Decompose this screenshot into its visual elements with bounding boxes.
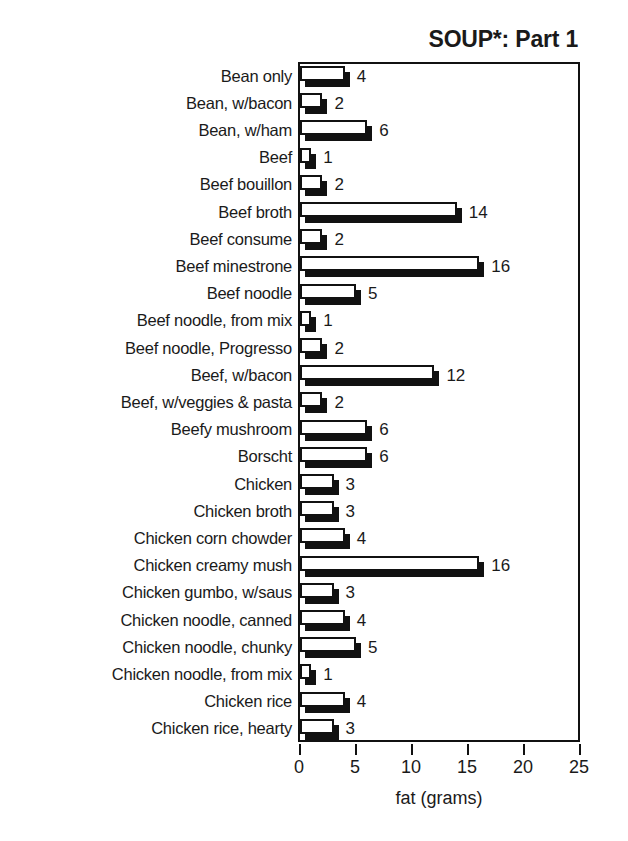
category-label: Beef noodle <box>207 285 292 302</box>
bar <box>300 229 328 250</box>
bar-face <box>300 583 334 598</box>
bar-face <box>300 93 322 108</box>
category-label: Chicken creamy mush <box>134 557 292 574</box>
bar-face <box>300 256 479 271</box>
category-label: Bean, w/ham <box>198 122 292 139</box>
category-label: Chicken noodle, chunky <box>122 639 292 656</box>
bar-value-label: 3 <box>346 720 355 737</box>
bar <box>300 392 328 413</box>
category-label: Beef consume <box>190 231 292 248</box>
bar <box>300 202 463 223</box>
x-tick-label: 20 <box>513 758 533 776</box>
bar <box>300 338 328 359</box>
bar-face <box>300 311 311 326</box>
bar <box>300 692 351 713</box>
bar <box>300 610 351 631</box>
bar <box>300 365 440 386</box>
bar <box>300 148 317 169</box>
bar-row: Chicken rice4 <box>0 688 628 715</box>
bar-value-label: 1 <box>323 312 332 329</box>
bar-face <box>300 637 356 652</box>
bar-row: Borscht6 <box>0 443 628 470</box>
bar-row: Chicken creamy mush16 <box>0 552 628 579</box>
bar-row: Bean, w/bacon2 <box>0 89 628 116</box>
category-label: Chicken rice <box>204 693 292 710</box>
bar-face <box>300 692 345 707</box>
bar-row: Beef consume2 <box>0 225 628 252</box>
bar-value-label: 4 <box>357 693 366 710</box>
bar-row: Chicken broth3 <box>0 497 628 524</box>
x-tick-mark <box>355 744 357 755</box>
bar-value-label: 3 <box>346 475 355 492</box>
bar-value-label: 2 <box>334 230 343 247</box>
bar <box>300 637 362 658</box>
bar <box>300 420 373 441</box>
bar-face <box>300 528 345 543</box>
bar-row: Beef1 <box>0 144 628 171</box>
bar-value-label: 6 <box>379 448 388 465</box>
bar-face <box>300 447 367 462</box>
bar <box>300 175 328 196</box>
category-label: Beef bouillon <box>200 176 292 193</box>
x-tick-label: 5 <box>350 758 360 776</box>
bar-row: Bean only4 <box>0 62 628 89</box>
bar <box>300 474 340 495</box>
bar-row: Bean, w/ham6 <box>0 116 628 143</box>
bar-face <box>300 474 334 489</box>
bar <box>300 719 340 740</box>
category-label: Chicken rice, hearty <box>151 720 292 737</box>
bar-value-label: 2 <box>334 339 343 356</box>
bar-row: Chicken noodle, canned4 <box>0 606 628 633</box>
bar-face <box>300 365 434 380</box>
category-label: Bean only <box>221 67 292 84</box>
bar-row: Chicken noodle, from mix1 <box>0 660 628 687</box>
chart-title: SOUP*: Part 1 <box>428 26 578 53</box>
bar-face <box>300 501 334 516</box>
category-label: Beef, w/bacon <box>191 367 292 384</box>
category-label: Chicken noodle, from mix <box>112 666 292 683</box>
bar-face <box>300 202 457 217</box>
category-label: Beef broth <box>218 203 292 220</box>
bar-face <box>300 610 345 625</box>
bar-value-label: 3 <box>346 584 355 601</box>
x-tick-label: 10 <box>401 758 421 776</box>
bar <box>300 447 373 468</box>
bar-face <box>300 420 367 435</box>
x-tick-mark <box>523 744 525 755</box>
bar-face <box>300 719 334 734</box>
bar <box>300 120 373 141</box>
bar <box>300 93 328 114</box>
category-label: Beef, w/veggies & pasta <box>121 394 292 411</box>
bar <box>300 256 485 277</box>
bar-row: Beef noodle5 <box>0 280 628 307</box>
soup-fat-bar-chart: SOUP*: Part 1 Bean only4Bean, w/bacon2Be… <box>0 0 628 841</box>
bar <box>300 311 317 332</box>
bar <box>300 66 351 87</box>
bar-value-label: 3 <box>346 502 355 519</box>
category-label: Chicken corn chowder <box>134 530 292 547</box>
bar-row: Chicken gumbo, w/saus3 <box>0 579 628 606</box>
category-label: Beefy mushroom <box>171 421 292 438</box>
bar-row: Chicken corn chowder4 <box>0 524 628 551</box>
bar-row: Chicken rice, hearty3 <box>0 715 628 742</box>
bar <box>300 556 485 577</box>
bar-row: Beef minestrone16 <box>0 252 628 279</box>
category-label: Chicken noodle, canned <box>120 611 292 628</box>
bar <box>300 528 351 549</box>
bar-value-label: 6 <box>379 421 388 438</box>
bar-face <box>300 229 322 244</box>
bar-value-label: 4 <box>357 67 366 84</box>
bar-row: Beef, w/bacon12 <box>0 361 628 388</box>
bar-value-label: 16 <box>491 257 510 274</box>
bar <box>300 501 340 522</box>
bar-value-label: 4 <box>357 611 366 628</box>
category-label: Beef noodle, Progresso <box>125 339 292 356</box>
bar-face <box>300 556 479 571</box>
bar-row: Beef noodle, Progresso2 <box>0 334 628 361</box>
category-label: Beef <box>259 149 292 166</box>
bar-row: Beef, w/veggies & pasta2 <box>0 388 628 415</box>
category-label: Beef minestrone <box>176 258 292 275</box>
bar-row: Chicken3 <box>0 470 628 497</box>
category-label: Bean, w/bacon <box>186 95 292 112</box>
bar-row: Beef broth14 <box>0 198 628 225</box>
